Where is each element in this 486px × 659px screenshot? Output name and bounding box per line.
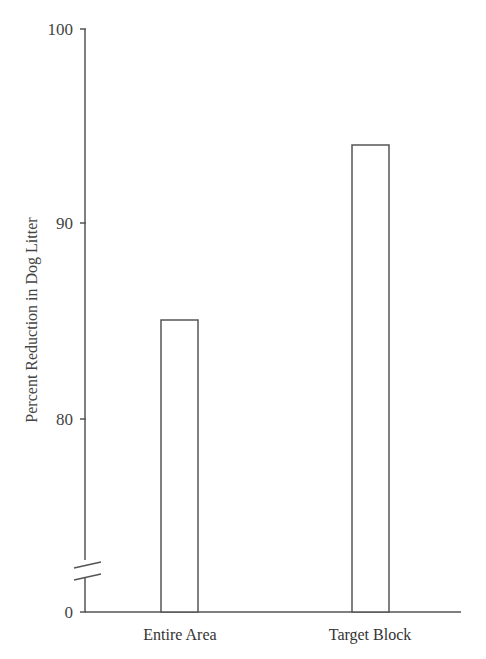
tick-label-90: 90 bbox=[56, 214, 73, 233]
tick-label-0: 0 bbox=[65, 603, 74, 622]
bar-chart: 100 90 80 0 Percent Reduction in Dog Lit… bbox=[0, 0, 486, 659]
bar-entire-area bbox=[161, 320, 198, 612]
y-axis-title: Percent Reduction in Dog Litter bbox=[23, 217, 41, 423]
category-label-target-block: Target Block bbox=[329, 626, 412, 644]
bar-target-block bbox=[352, 145, 389, 612]
axis-break-icon bbox=[74, 560, 101, 580]
tick-label-80: 80 bbox=[56, 410, 73, 429]
tick-label-100: 100 bbox=[48, 20, 74, 39]
category-label-entire-area: Entire Area bbox=[143, 626, 216, 643]
